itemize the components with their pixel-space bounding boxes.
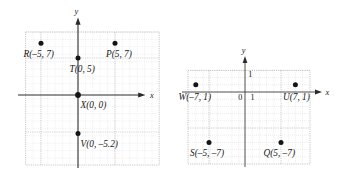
- left-coordinate-plane: x y R(–5, 7) P(5, 7) T(0, 5) X(0, 0) V(0…: [18, 7, 159, 168]
- left-point-P-label: P(5, 7): [105, 49, 132, 60]
- left-point-T: [76, 56, 81, 61]
- right-x-axis-label: x: [325, 88, 330, 97]
- right-y-axis-label: y: [241, 46, 246, 55]
- right-point-W-label: W(–7, 1): [179, 92, 212, 103]
- right-origin-label: 0: [238, 93, 242, 102]
- right-point-Q-label: Q(5, –7): [264, 148, 296, 159]
- left-y-axis-label: y: [74, 7, 79, 16]
- right-point-S: [207, 140, 212, 145]
- right-x-unit-tick-label: 1: [250, 93, 254, 102]
- right-point-S-label: S(–5, –7): [190, 148, 224, 159]
- left-point-R: [39, 41, 44, 46]
- left-point-V: [76, 131, 81, 136]
- left-point-X: [75, 92, 81, 98]
- right-point-Q: [279, 140, 284, 145]
- right-point-U: [293, 82, 298, 87]
- figure-canvas: x y R(–5, 7) P(5, 7) T(0, 5) X(0, 0) V(0…: [0, 0, 339, 174]
- left-y-axis-arrow: [75, 18, 80, 25]
- right-y-axis-arrow: [243, 56, 248, 63]
- left-x-axis-label: x: [149, 91, 154, 100]
- left-point-R-label: R(–5, 7): [23, 49, 54, 60]
- right-point-U-label: U(7, 1): [283, 92, 310, 103]
- right-coordinate-plane: x y 1 0 1 W(–7, 1) U(7, 1) S(–5, –7) Q(5…: [179, 46, 330, 167]
- right-y-unit-tick-label: 1: [248, 70, 252, 79]
- left-point-T-label: T(0, 5): [70, 64, 95, 75]
- left-point-V-label: V(0, –5.2): [81, 139, 118, 150]
- left-point-X-label: X(0, 0): [80, 100, 107, 111]
- left-point-P: [113, 41, 118, 46]
- coordinate-planes-figure: x y R(–5, 7) P(5, 7) T(0, 5) X(0, 0) V(0…: [0, 0, 339, 174]
- right-x-axis-arrow: [315, 90, 322, 95]
- left-x-axis-arrow: [138, 92, 145, 97]
- right-point-W: [193, 82, 198, 87]
